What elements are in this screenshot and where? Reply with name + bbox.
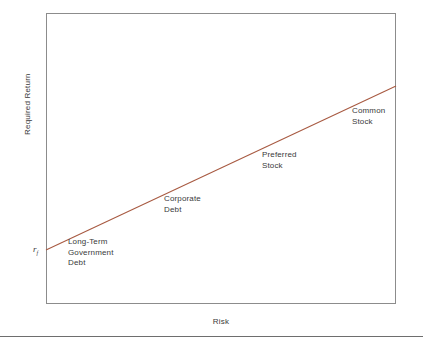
- footer-divider: [0, 336, 423, 337]
- annotation-common-stock: Common Stock: [352, 106, 385, 127]
- annotation-line: Corporate: [164, 194, 201, 205]
- annotation-line: Stock: [262, 161, 297, 172]
- annotation-preferred-stock: Preferred Stock: [262, 150, 297, 171]
- annotation-line: Long-Term: [68, 237, 114, 248]
- annotation-corporate-debt: Corporate Debt: [164, 194, 201, 215]
- annotation-line: Government: [68, 248, 114, 259]
- annotation-line: Stock: [352, 117, 385, 128]
- risk-return-figure: Required Return Risk rf Long-Term Govern…: [0, 0, 423, 345]
- annotation-line: Preferred: [262, 150, 297, 161]
- annotation-line: Debt: [164, 205, 201, 216]
- annotation-line: Debt: [68, 258, 114, 269]
- y-axis-title: Required Return: [23, 73, 32, 135]
- x-axis-title: Risk: [46, 317, 396, 326]
- risk-free-rate-subscript: f: [37, 250, 39, 256]
- annotation-long-term-government-debt: Long-Term Government Debt: [68, 237, 114, 269]
- annotation-line: Common: [352, 106, 385, 117]
- risk-free-rate-label: rf: [33, 244, 38, 256]
